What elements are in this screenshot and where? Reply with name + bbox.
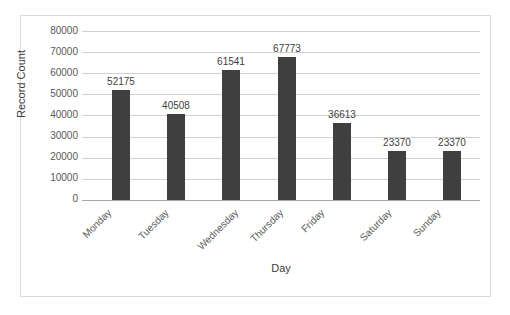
- bar-value-label: 23370: [367, 137, 427, 148]
- bar-value-label: 67773: [257, 43, 317, 54]
- x-tick-label: Wednesday: [195, 207, 240, 252]
- x-tick-label: Saturday: [358, 207, 394, 243]
- y-axis-title: Record Count: [15, 39, 27, 129]
- bar-sunday[interactable]: [443, 151, 461, 200]
- x-tick-label: Monday: [80, 207, 113, 240]
- y-tick-label: 30000: [50, 131, 78, 141]
- x-axis-line: [82, 200, 480, 201]
- bar-value-label: 61541: [201, 56, 261, 67]
- bar-value-label: 40508: [146, 100, 206, 111]
- y-tick-label: 20000: [50, 152, 78, 162]
- bar-tuesday[interactable]: [167, 114, 185, 200]
- bar-saturday[interactable]: [388, 151, 406, 200]
- bar-value-label: 36613: [312, 109, 372, 120]
- y-tick-label: 70000: [50, 47, 78, 57]
- y-tick-label: 60000: [50, 68, 78, 78]
- x-axis-tick-labels: Monday Tuesday Wednesday Thursday Friday…: [82, 203, 480, 258]
- x-tick-label: Thursday: [248, 207, 285, 244]
- y-tick-label: 40000: [50, 110, 78, 120]
- y-tick-label: 80000: [50, 26, 78, 36]
- bar-value-label: 52175: [91, 76, 151, 87]
- plot-area: 52175 40508 61541 67773 36613 23370 2337…: [82, 31, 480, 200]
- bar-thursday[interactable]: [278, 57, 296, 200]
- gridline: [82, 31, 480, 32]
- y-tick-label: 10000: [50, 173, 78, 183]
- bar-monday[interactable]: [112, 90, 130, 200]
- x-tick-label: Tuesday: [136, 207, 171, 242]
- x-axis-title: Day: [82, 262, 480, 274]
- bar-value-label: 23370: [422, 137, 482, 148]
- bar-friday[interactable]: [333, 123, 351, 200]
- bar-wednesday[interactable]: [222, 70, 240, 200]
- y-tick-label: 0: [72, 194, 78, 204]
- y-axis-tick-labels: 80000 70000 60000 50000 40000 30000 2000…: [36, 31, 78, 200]
- bar-chart: Record Count 80000 70000 60000 50000 400…: [0, 0, 510, 315]
- y-tick-label: 50000: [50, 89, 78, 99]
- x-tick-label: Sunday: [411, 207, 443, 239]
- x-tick-label: Friday: [299, 207, 326, 234]
